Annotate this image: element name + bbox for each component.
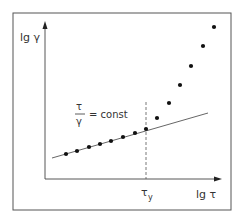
linear-data-point: [133, 131, 137, 135]
svg-text:y: y: [148, 193, 153, 202]
y-axis-arrow-icon: [43, 21, 48, 29]
nonlinear-data-point: [178, 83, 182, 87]
linear-data-point: [87, 145, 91, 149]
linear-data-point: [98, 142, 102, 146]
x-axis: [45, 177, 222, 182]
nonlinear-data-point: [155, 116, 159, 120]
data-points: [64, 25, 216, 156]
nonlinear-data-point: [212, 25, 216, 29]
y-axis: [43, 21, 48, 179]
linear-data-point: [144, 127, 148, 131]
svg-text:= const: = const: [89, 109, 128, 120]
x-axis-arrow-icon: [214, 177, 222, 182]
x-axis-label: lg τ: [196, 188, 217, 201]
nonlinear-data-point: [201, 44, 205, 48]
nonlinear-data-point: [189, 64, 193, 68]
yield-stress-tick-label: τ y: [141, 186, 153, 202]
linear-data-point: [64, 152, 68, 156]
svg-text:γ: γ: [76, 116, 82, 127]
svg-text:τ: τ: [76, 101, 82, 112]
nonlinear-data-point: [167, 101, 171, 105]
svg-text:τ: τ: [141, 186, 148, 199]
y-axis-label: lg γ: [20, 31, 41, 44]
diagram-canvas: lg γ lg τ τ y τ γ = const: [0, 0, 239, 217]
linear-data-point: [75, 149, 79, 153]
linear-data-point: [121, 135, 125, 139]
linear-data-point: [109, 139, 113, 143]
const-ratio-annotation: τ γ = const: [75, 101, 128, 127]
